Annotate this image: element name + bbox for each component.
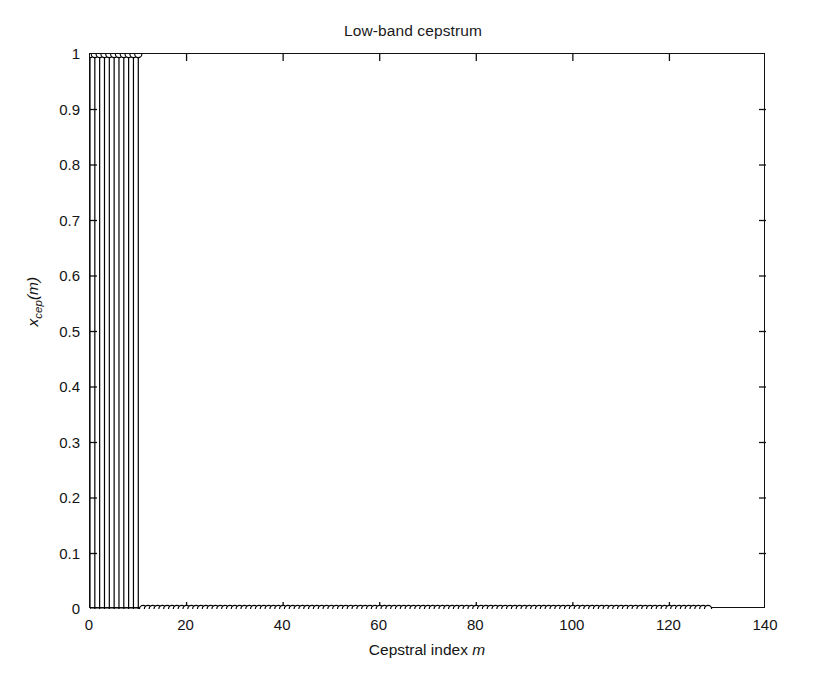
stem-lines bbox=[90, 54, 138, 609]
stem-plot-svg bbox=[90, 54, 766, 609]
x-axis-title-variable: m bbox=[472, 641, 485, 658]
data-point-marker bbox=[704, 605, 711, 609]
plot-area bbox=[89, 53, 765, 608]
x-tick-label: 80 bbox=[467, 616, 484, 633]
x-tick-label: 120 bbox=[656, 616, 681, 633]
x-tick-label: 40 bbox=[274, 616, 291, 633]
x-tick-label: 60 bbox=[370, 616, 387, 633]
y-tick-label: 0.1 bbox=[18, 544, 80, 561]
y-tick-label: 0.4 bbox=[18, 378, 80, 395]
y-tick-label: 1 bbox=[18, 45, 80, 62]
x-tick-label: 100 bbox=[559, 616, 584, 633]
y-axis-title-subscript: cep bbox=[32, 300, 44, 319]
data-point-marker bbox=[135, 54, 142, 58]
figure-canvas: Low-band cepstrum 00.10.20.30.40.50.60.7… bbox=[0, 0, 826, 679]
y-tick-label: 0.2 bbox=[18, 489, 80, 506]
y-tick-label: 0.8 bbox=[18, 156, 80, 173]
axis-tick-marks bbox=[90, 54, 766, 609]
x-tick-label: 0 bbox=[85, 616, 93, 633]
chart-title: Low-band cepstrum bbox=[0, 22, 826, 40]
y-axis-title-base: x bbox=[24, 319, 41, 327]
y-axis-title: xcep(m) bbox=[24, 232, 43, 372]
x-tick-label: 140 bbox=[752, 616, 777, 633]
y-tick-label: 0.9 bbox=[18, 100, 80, 117]
x-axis-title: Cepstral index m bbox=[89, 641, 765, 659]
y-axis-title-tail: (m) bbox=[24, 277, 41, 300]
x-axis-title-text: Cepstral index bbox=[369, 641, 468, 658]
stem-markers bbox=[90, 54, 712, 609]
x-tick-label: 20 bbox=[177, 616, 194, 633]
y-tick-label: 0 bbox=[18, 600, 80, 617]
y-tick-label: 0.7 bbox=[18, 211, 80, 228]
y-tick-label: 0.3 bbox=[18, 433, 80, 450]
